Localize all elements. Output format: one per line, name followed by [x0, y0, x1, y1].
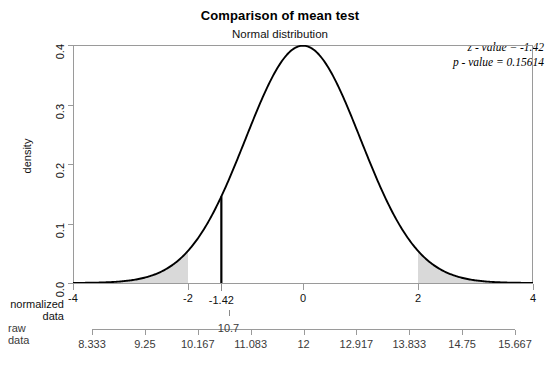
raw-axis-tick: [515, 330, 516, 335]
raw-data-axis-label: raw data: [8, 322, 48, 346]
x-axis-tick-label: 2: [388, 292, 448, 304]
raw-axis-tick-label: 12.917: [326, 338, 386, 350]
y-axis-tick-label: 0.4: [54, 44, 66, 74]
x-axis-tick: [418, 284, 419, 290]
raw-axis-tick-label: 9.25: [115, 338, 175, 350]
y-axis-tick: [68, 224, 73, 225]
y-axis-tick: [68, 164, 73, 165]
y-axis-tick-label: 0.1: [54, 223, 66, 253]
y-axis-tick: [68, 45, 73, 46]
chart-title: Comparison of mean test: [0, 8, 560, 23]
x-axis-tick: [533, 284, 534, 290]
raw-label-line1: raw: [8, 322, 48, 334]
raw-axis-tick: [92, 330, 93, 335]
chart-subtitle: Normal distribution: [0, 28, 560, 40]
normal-distribution-curve: [73, 45, 533, 283]
raw-label-line2: data: [8, 334, 48, 346]
normalized-label-line1: normalized: [0, 298, 64, 310]
y-axis-tick-label: 0.2: [54, 163, 66, 193]
x-axis-tick: [188, 284, 189, 290]
raw-axis-tick: [145, 330, 146, 335]
raw-axis-tick: [304, 330, 305, 335]
x-axis-tick: [73, 284, 74, 290]
raw-axis-tick: [356, 330, 357, 335]
z-value-axis-tick: [221, 284, 222, 291]
y-axis-title: density: [21, 126, 33, 186]
raw-axis-tick-label: 11.083: [221, 338, 281, 350]
raw-z-axis-tick-label: 10.7: [199, 322, 259, 334]
normalized-label-line2: data: [0, 310, 64, 322]
raw-axis-tick: [462, 330, 463, 335]
raw-z-axis-tick: [229, 310, 230, 316]
raw-axis-tick-label: 10.167: [168, 338, 228, 350]
chart-canvas: Comparison of mean test Normal distribut…: [0, 0, 560, 369]
raw-axis-tick: [409, 330, 410, 335]
x-axis-tick-label: 0: [273, 292, 333, 304]
normalized-data-axis-label: normalized data: [0, 298, 64, 322]
x-axis-tick-label: 4: [503, 292, 560, 304]
raw-axis-tick-label: 8.333: [62, 338, 122, 350]
x-axis-tick: [303, 284, 304, 290]
raw-axis-tick-label: 15.667: [485, 338, 545, 350]
z-value-axis-tick-label: -1.42: [191, 294, 251, 306]
raw-axis-tick-label: 12: [274, 338, 334, 350]
density-line: [73, 46, 533, 283]
y-axis-tick-label: 0.3: [54, 104, 66, 134]
raw-axis-tick-label: 14.75: [432, 338, 492, 350]
y-axis-tick: [68, 105, 73, 106]
raw-axis-tick-label: 13.833: [379, 338, 439, 350]
